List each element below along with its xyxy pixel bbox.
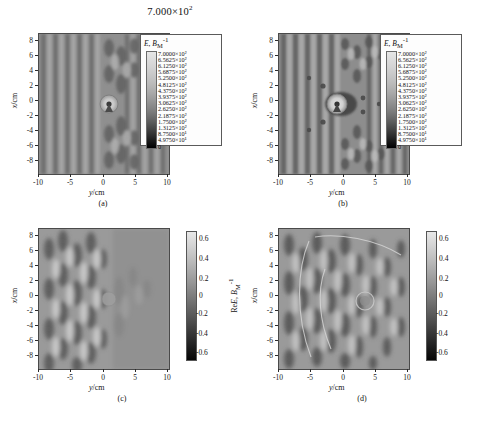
- panel-c-xlabel-0: 0: [101, 373, 105, 382]
- panel-b-ylabel-m6: -6: [257, 141, 273, 150]
- figure-root: 7.000×102: [0, 0, 480, 427]
- panel-c-xlabel-m5: -5: [67, 373, 73, 382]
- panel-a-xlabel-10: 10: [163, 178, 171, 187]
- cb-tick: 0: [398, 144, 427, 150]
- panel-b-x-axis-label: y/cm: [329, 188, 345, 197]
- panel-c-ylabel-2: 2: [20, 276, 33, 285]
- panel-b-ytick-m4: [275, 130, 278, 131]
- panel-d-xlabel-5: 5: [373, 373, 377, 382]
- panel-b-colorbar-ticklabels: 7.0000×10² 6.5625×10² 6.1250×10² 5.6875×…: [398, 51, 427, 150]
- panel-c-ytick-6: [35, 250, 38, 251]
- cb-tick: 4.9750×10¹: [158, 137, 187, 143]
- panel-b-xtick-m10: [278, 174, 279, 177]
- panel-a-xlabel-5: 5: [133, 178, 137, 187]
- panel-a-ytick-2: [35, 85, 38, 86]
- panel-b-ytick-m8: [275, 160, 278, 161]
- panel-b-colorbar-gradient: [386, 51, 397, 149]
- panel-c-ytick-m8: [35, 355, 38, 356]
- panel-a-ylabel-m6: -6: [17, 141, 33, 150]
- suptitle-exponent: 2: [189, 4, 193, 12]
- panel-c-ytick-m4: [35, 325, 38, 326]
- suptitle-mantissa: 7.000: [147, 6, 172, 17]
- panel-d-xtick-5: [375, 369, 376, 372]
- panel-a-x-axis-label: y/cm: [89, 188, 105, 197]
- panel-a-xtick-10: [167, 174, 168, 177]
- panel-d-ylabel-2: 2: [260, 276, 273, 285]
- panel-d-cbtick-3: 0: [439, 291, 443, 300]
- panel-b-ytick-0: [275, 100, 278, 101]
- panel-d-ylabel-0: 0: [260, 291, 273, 300]
- panel-d-xtick-m5: [310, 369, 311, 372]
- panel-c-xtick-10: [167, 369, 168, 372]
- panel-c-xtick-0: [103, 369, 104, 372]
- panel-a-ylabel-0: 0: [20, 96, 33, 105]
- panel-b-central-core: [325, 92, 357, 116]
- panel-a-xtick-0: [103, 174, 104, 177]
- panel-d-ytick-0: [275, 295, 278, 296]
- panel-d-ylabel-6: 6: [260, 246, 273, 255]
- panel-b-xtick-5: [375, 174, 376, 177]
- panel-c-xlabel-10: 10: [163, 373, 171, 382]
- panel-d-plot-area: [278, 228, 410, 370]
- panel-a-colorbar-ticklabels: 7.0000×10² 6.5625×10² 6.1250×10² 5.6875×…: [158, 51, 187, 150]
- panel-d-xlabel-m10: -10: [273, 373, 283, 382]
- panel-a-xtick-m5: [70, 174, 71, 177]
- panel-c-ylabel-6: 6: [20, 246, 33, 255]
- panel-a-ytick-m2: [35, 115, 38, 116]
- panel-c-ytick-4: [35, 265, 38, 266]
- panel-d-xlabel-0: 0: [341, 373, 345, 382]
- figure-suptitle: 7.000×102: [0, 4, 340, 17]
- panel-a-ylabel-m2: -2: [17, 111, 33, 120]
- panel-c-ylabel-m4: -4: [17, 321, 33, 330]
- panel-b-xlabel-m10: -10: [273, 178, 283, 187]
- panel-b-ylabel-4: 4: [260, 66, 273, 75]
- panel-b-colorbar-title: E, BM-1: [384, 37, 459, 50]
- panel-d-ylabel-4: 4: [260, 261, 273, 270]
- panel-a-xtick-5: [135, 174, 136, 177]
- panel-c-field-image: [39, 229, 169, 369]
- suptitle-base: 10: [178, 6, 189, 17]
- panel-a-ytick-4: [35, 70, 38, 71]
- panel-c-y-axis-label: x/cm: [10, 276, 19, 316]
- panel-a-ytick-0: [35, 100, 38, 101]
- panel-b-ytick-m2: [275, 115, 278, 116]
- cb-tick: 0: [158, 144, 187, 150]
- panel-c-ylabel-m2: -2: [17, 306, 33, 315]
- panel-a-xlabel-m10: -10: [33, 178, 43, 187]
- panel-b-xlabel-5: 5: [373, 178, 377, 187]
- panel-b-xlabel-0: 0: [341, 178, 345, 187]
- panel-a-xlabel-0: 0: [101, 178, 105, 187]
- panel-d-ytick-m4: [275, 325, 278, 326]
- panel-b-xlabel-10: 10: [403, 178, 411, 187]
- panel-d-ylabel-m4: -4: [257, 321, 273, 330]
- panel-b-ytick-4: [275, 70, 278, 71]
- panel-b-ylabel-m2: -2: [257, 111, 273, 120]
- panel-a-ylabel-4: 4: [20, 66, 33, 75]
- panel-a-ylabel-2: 2: [20, 81, 33, 90]
- cb-tick: 4.9750×10¹: [398, 137, 427, 143]
- panel-c-plot-area: [38, 228, 170, 370]
- panel-b-caption: (b): [338, 199, 347, 208]
- panel-c-xlabel-m10: -10: [33, 373, 43, 382]
- panel-d-ytick-m6: [275, 340, 278, 341]
- panel-b-xtick-10: [407, 174, 408, 177]
- panel-c-ytick-m6: [35, 340, 38, 341]
- panel-c-xtick-5: [135, 369, 136, 372]
- panel-a-colorbar-title: E, BM-1: [144, 37, 219, 50]
- panel-a-ytick-m4: [35, 130, 38, 131]
- panel-a-ylabel-8: 8: [20, 36, 33, 45]
- panel-d-xlabel-m5: -5: [307, 373, 313, 382]
- panel-c-xlabel-5: 5: [133, 373, 137, 382]
- panel-d-ytick-m2: [275, 310, 278, 311]
- panel-d-cbtick-1: 0.4: [439, 254, 448, 263]
- panel-d-xlabel-10: 10: [403, 373, 411, 382]
- panel-d-ylabel-8: 8: [260, 231, 273, 240]
- panel-c-xtick-m10: [38, 369, 39, 372]
- panel-c-cbtick-2: 0.2: [199, 274, 208, 283]
- panel-a-caption: (a): [99, 199, 108, 208]
- panel-c-ytick-8: [35, 235, 38, 236]
- panel-b-ylabel-6: 6: [260, 51, 273, 60]
- panel-c-x-axis-label: y/cm: [89, 383, 105, 392]
- panel-c-cbtick-6: -0.6: [196, 348, 208, 357]
- panel-d-cbtick-5: -0.4: [436, 329, 448, 338]
